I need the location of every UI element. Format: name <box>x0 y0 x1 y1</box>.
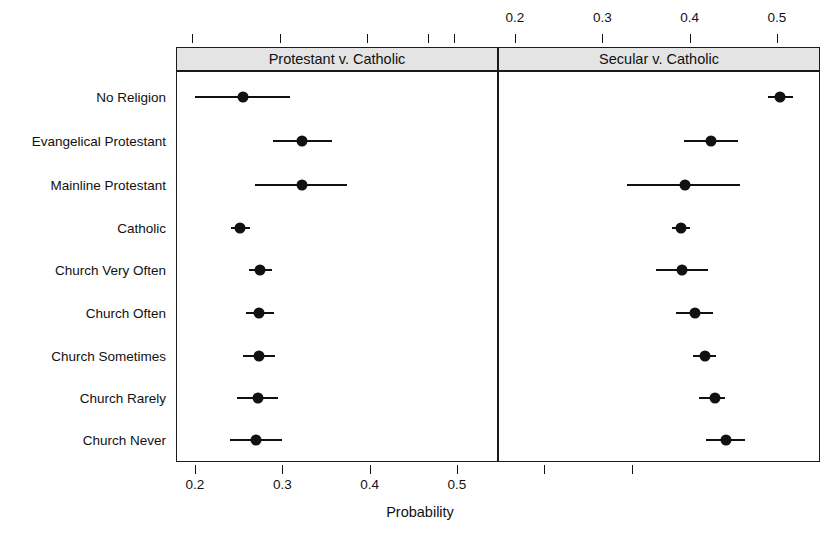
data-point <box>235 223 246 234</box>
tick-mark <box>282 465 283 474</box>
panel-header-right-label: Secular v. Catholic <box>599 51 719 67</box>
category-label: Church Very Often <box>55 263 166 278</box>
data-point <box>689 308 700 319</box>
tick-mark <box>515 34 516 43</box>
data-point <box>252 393 263 404</box>
tick-label: 0.2 <box>506 10 525 25</box>
tick-mark <box>280 34 281 43</box>
data-point <box>296 180 307 191</box>
tick-label: 0.4 <box>360 477 379 492</box>
data-point <box>680 180 691 191</box>
tick-mark <box>367 34 368 43</box>
data-point <box>254 265 265 276</box>
category-label: Catholic <box>117 221 166 236</box>
data-point <box>675 223 686 234</box>
tick-label: 0.5 <box>768 10 787 25</box>
tick-mark <box>428 34 429 43</box>
panel-header-left-label: Protestant v. Catholic <box>269 51 406 67</box>
category-label: Church Sometimes <box>51 349 166 364</box>
data-point <box>700 351 711 362</box>
category-label: No Religion <box>96 90 166 105</box>
data-point <box>709 393 720 404</box>
tick-label: 0.3 <box>593 10 612 25</box>
panel-header-right: Secular v. Catholic <box>498 47 820 71</box>
category-label: Evangelical Protestant <box>32 134 166 149</box>
tick-mark <box>195 465 196 474</box>
tick-mark <box>454 34 455 43</box>
category-label: Church Rarely <box>80 391 166 406</box>
tick-mark <box>370 465 371 474</box>
data-point <box>297 136 308 147</box>
data-point <box>721 435 732 446</box>
tick-mark <box>192 34 193 43</box>
plot-area-left <box>176 71 498 462</box>
tick-mark <box>602 34 603 43</box>
data-point <box>253 308 264 319</box>
x-axis-label: Probability <box>386 504 454 520</box>
data-point <box>706 136 717 147</box>
plot-area-right <box>498 71 820 462</box>
tick-mark <box>632 465 633 474</box>
tick-label: 0.5 <box>448 477 467 492</box>
data-point <box>676 265 687 276</box>
category-label: Church Often <box>86 306 166 321</box>
tick-label: 0.4 <box>680 10 699 25</box>
tick-mark <box>777 34 778 43</box>
tick-mark <box>690 34 691 43</box>
data-point <box>253 351 264 362</box>
forest-plot-figure: 0.20.30.40.5 Protestant v. Catholic Secu… <box>0 0 836 540</box>
data-point <box>775 92 786 103</box>
data-point <box>251 435 262 446</box>
panel-header-left: Protestant v. Catholic <box>176 47 498 71</box>
category-label: Mainline Protestant <box>50 178 166 193</box>
tick-label: 0.3 <box>273 477 292 492</box>
tick-mark <box>544 465 545 474</box>
tick-label: 0.2 <box>186 477 205 492</box>
data-point <box>238 92 249 103</box>
tick-mark <box>457 465 458 474</box>
category-label: Church Never <box>83 433 166 448</box>
